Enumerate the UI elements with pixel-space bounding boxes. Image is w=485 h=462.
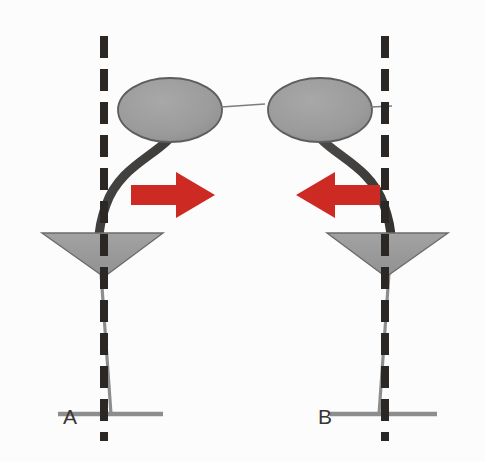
anatomical-diagram: A B: [0, 0, 485, 462]
organ-ellipse: [268, 78, 372, 142]
organ-ellipse: [118, 78, 222, 142]
panel-label-b: B: [318, 405, 332, 428]
panel-label-a: A: [63, 405, 77, 428]
figure-container: A B: [0, 0, 485, 462]
figure-background: [0, 0, 485, 462]
